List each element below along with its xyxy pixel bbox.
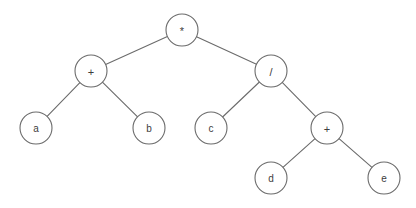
tree-node[interactable]: / [255,55,287,87]
tree-node[interactable]: c [195,112,227,144]
tree-edge [283,139,315,168]
node-label: + [88,66,94,78]
tree-edge [102,82,137,117]
tree-edge [339,139,372,168]
tree-node[interactable]: d [255,162,287,194]
node-layer: *+/abc+de [20,14,400,194]
node-label: b [146,123,152,134]
tree-node[interactable]: e [368,162,400,194]
node-label: a [33,123,39,134]
node-label: d [268,173,274,184]
tree-edge [223,82,260,117]
tree-node[interactable]: a [20,112,52,144]
node-label: c [209,123,214,134]
node-label: + [324,123,330,135]
node-label: e [381,173,387,184]
node-label: * [180,25,185,37]
tree-edge [106,37,168,65]
tree-edge [47,83,80,117]
tree-edge [282,82,316,116]
expression-tree-diagram: *+/abc+de [0,0,416,208]
tree-node[interactable]: + [311,112,343,144]
tree-node[interactable]: b [133,112,165,144]
tree-edge [197,37,257,65]
tree-node[interactable]: * [166,14,198,46]
tree-node[interactable]: + [75,55,107,87]
